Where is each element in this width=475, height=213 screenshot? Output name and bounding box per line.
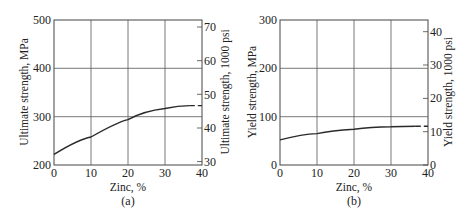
y-tick-a-500: 500: [33, 13, 51, 27]
x-tick-a-10: 10: [85, 166, 97, 180]
y-tick-a-400: 400: [33, 61, 51, 75]
y-tick-b-100: 100: [259, 110, 277, 124]
right-axis-ticks-b: [423, 32, 428, 165]
x-tick-b-10: 10: [311, 166, 323, 180]
grid-vertical-a: [91, 20, 165, 165]
panel-b: 300 200 100 0 0 10 20 30 40 0 10 20 30 4…: [246, 13, 455, 208]
caption-b: (b): [347, 194, 361, 208]
x-axis-label-b: Zinc, %: [336, 181, 373, 194]
yield-strength-curve: [280, 126, 416, 140]
x-tick-a-30: 30: [159, 166, 171, 180]
y-axis-right-label-b: Yield strength, 1000 psi: [442, 37, 455, 147]
y-right-tick-a-70: 70: [204, 20, 216, 34]
x-tick-b-20: 20: [348, 166, 360, 180]
grid-vertical-b: [317, 20, 391, 165]
y-tick-b-300: 300: [259, 13, 277, 27]
y-right-tick-b-10: 10: [430, 125, 442, 139]
figure: 500 400 300 200 30 40 50 60 70 0 10 20 3…: [0, 0, 475, 213]
y-tick-b-200: 200: [259, 61, 277, 75]
y-axis-right-label-a: Ultimate strength, 1000 psi: [219, 29, 232, 154]
ultimate-strength-curve: [54, 106, 190, 155]
y-tick-a-200: 200: [33, 158, 51, 172]
panel-a: 500 400 300 200 30 40 50 60 70 0 10 20 3…: [18, 13, 232, 208]
y-right-tick-b-20: 20: [430, 91, 442, 105]
y-right-tick-a-60: 60: [204, 54, 216, 68]
x-tick-b-40: 40: [422, 166, 434, 180]
x-tick-b-30: 30: [385, 166, 397, 180]
x-axis-label-a: Zinc, %: [110, 181, 147, 194]
x-tick-a-20: 20: [122, 166, 134, 180]
y-right-tick-a-40: 40: [204, 121, 216, 135]
x-tick-a-0: 0: [51, 166, 57, 180]
caption-a: (a): [121, 194, 134, 208]
y-tick-a-300: 300: [33, 110, 51, 124]
y-right-tick-b-40: 40: [430, 25, 442, 39]
y-axis-label-a: Ultimate strength, MPa: [18, 38, 31, 146]
x-tick-b-0: 0: [277, 166, 283, 180]
x-tick-a-40: 40: [196, 166, 208, 180]
y-axis-label-b: Yield strength, MPa: [246, 46, 259, 138]
right-axis-ticks-a: [197, 27, 202, 162]
y-right-tick-b-30: 30: [430, 58, 442, 72]
y-right-tick-a-50: 50: [204, 88, 216, 102]
